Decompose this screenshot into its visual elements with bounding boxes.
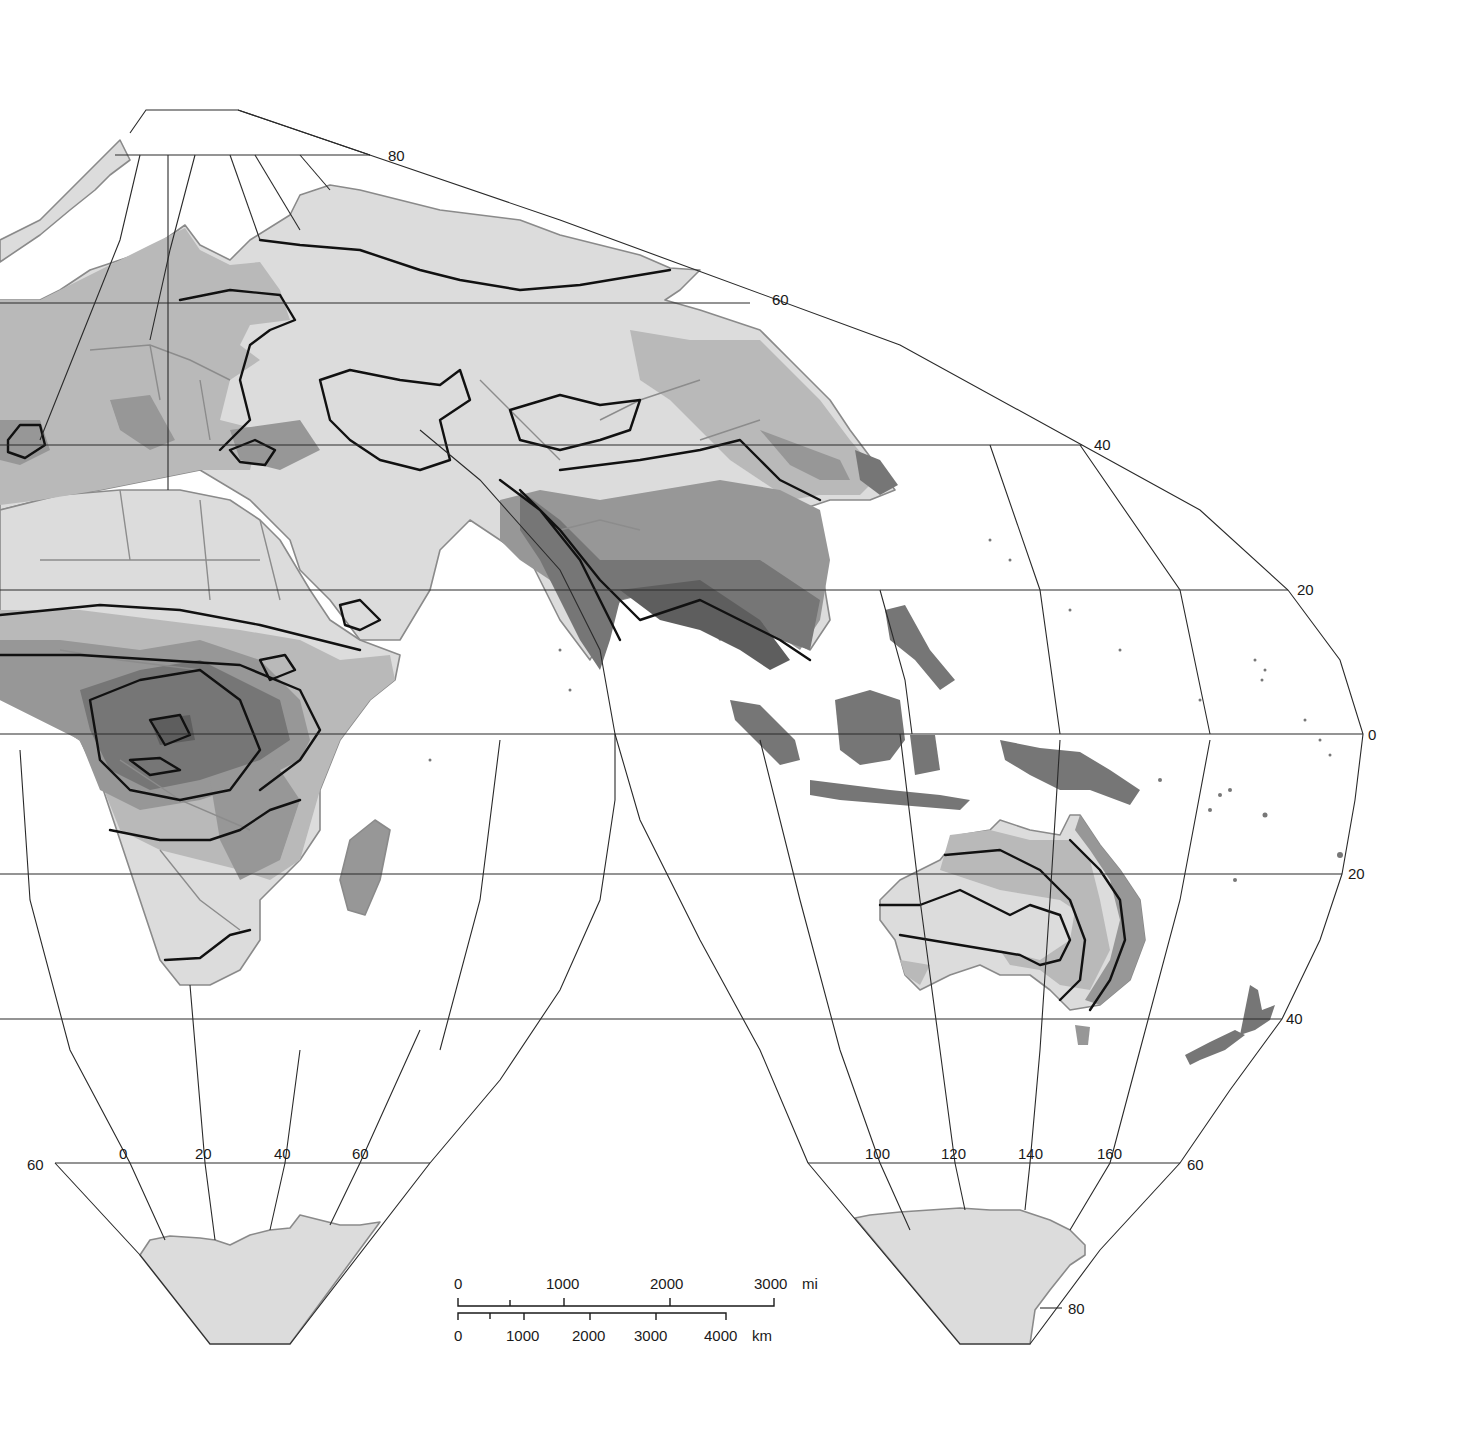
scale-km-0: 0 <box>454 1328 462 1343</box>
lat-label-80n: 80 <box>388 148 405 163</box>
lon-label-140: 140 <box>1018 1146 1043 1161</box>
scale-km-2000: 2000 <box>572 1328 605 1343</box>
scale-mi-2000: 2000 <box>650 1276 683 1291</box>
lat-label-40s: 40 <box>1286 1011 1303 1026</box>
scale-mi-1000: 1000 <box>546 1276 579 1291</box>
scale-km-4000: 4000 <box>704 1328 737 1343</box>
lat-label-60s-right: 60 <box>1187 1157 1204 1172</box>
lat-label-equator: 0 <box>1368 727 1376 742</box>
scale-km-1000: 1000 <box>506 1328 539 1343</box>
lon-label-160: 160 <box>1097 1146 1122 1161</box>
scale-mi-0: 0 <box>454 1276 462 1291</box>
scale-mi-unit: mi <box>802 1276 818 1291</box>
lon-label-100: 100 <box>865 1146 890 1161</box>
lon-label-60: 60 <box>352 1146 369 1161</box>
lat-label-20n: 20 <box>1297 582 1314 597</box>
lon-label-0: 0 <box>119 1146 127 1161</box>
scale-km-3000: 3000 <box>634 1328 667 1343</box>
lon-label-120: 120 <box>941 1146 966 1161</box>
world-map <box>0 0 1468 1434</box>
scale-bar: 0 1000 2000 3000 mi 0 1000 2000 3000 400… <box>456 1272 836 1352</box>
lat-label-60s-left: 60 <box>27 1157 44 1172</box>
scale-bar-lines <box>456 1292 786 1328</box>
lat-label-80s: 80 <box>1068 1301 1085 1316</box>
lat-label-20s: 20 <box>1348 866 1365 881</box>
lon-label-40: 40 <box>274 1146 291 1161</box>
scale-mi-3000: 3000 <box>754 1276 787 1291</box>
lat-label-60n: 60 <box>772 292 789 307</box>
lon-label-20: 20 <box>195 1146 212 1161</box>
scale-km-unit: km <box>752 1328 772 1343</box>
lat-label-40n: 40 <box>1094 437 1111 452</box>
